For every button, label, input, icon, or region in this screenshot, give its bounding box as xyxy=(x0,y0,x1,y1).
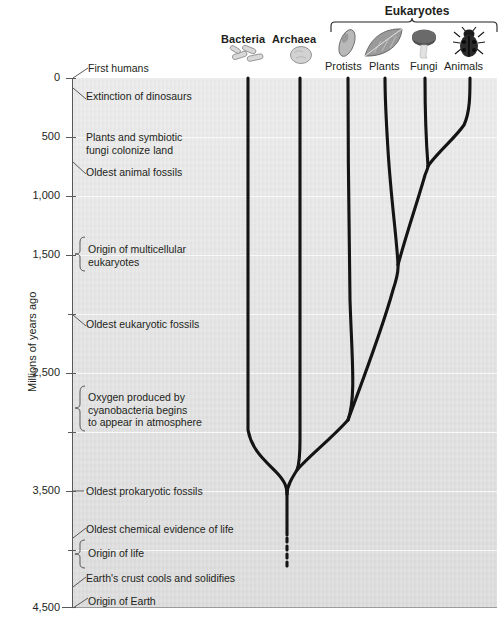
bacteria-lineage xyxy=(248,78,287,494)
phylogenetic-timeline-figure: Eukaryotes Bacteria Archaea Protists Pla… xyxy=(0,0,504,633)
phylogenetic-tree xyxy=(0,0,504,633)
animal-lineage xyxy=(428,78,470,166)
fungi-lineage xyxy=(425,78,428,166)
opisthokont-stem xyxy=(398,166,428,265)
protist-lineage xyxy=(348,78,353,420)
plant-lineage xyxy=(348,78,398,420)
archaea-lineage xyxy=(287,78,300,494)
eukaryote-stem xyxy=(297,420,348,470)
